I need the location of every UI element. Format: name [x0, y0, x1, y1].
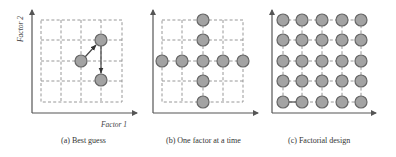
design-point [355, 14, 367, 26]
design-point [197, 34, 209, 46]
x-axis-label: Factor 1 [101, 120, 127, 129]
panel-b-one-factor-at-a-time [153, 10, 258, 113]
design-point [95, 74, 107, 86]
panel-c-factorial-design [272, 10, 376, 113]
design-point [277, 34, 289, 46]
design-point [316, 34, 328, 46]
caption-b: (b) One factor at a time [166, 136, 241, 145]
design-point [296, 34, 308, 46]
design-point [277, 14, 289, 26]
design-point [355, 75, 367, 87]
design-point [316, 55, 328, 67]
caption-a: (a) Best guess [61, 136, 106, 145]
design-point [95, 34, 107, 46]
design-point [336, 14, 348, 26]
design-point [296, 14, 308, 26]
design-point [217, 55, 229, 67]
design-point [355, 96, 367, 108]
design-point [316, 14, 328, 26]
design-point [197, 96, 209, 108]
caption-c: (c) Factorial design [288, 136, 350, 145]
design-point [277, 55, 289, 67]
design-point [355, 55, 367, 67]
design-point [355, 34, 367, 46]
design-point [296, 75, 308, 87]
design-point [296, 55, 308, 67]
design-point [176, 55, 188, 67]
design-point [156, 55, 168, 67]
design-point [197, 55, 209, 67]
design-point [316, 96, 328, 108]
panel-a-best-guess [32, 10, 137, 113]
panel-a-points [75, 34, 107, 86]
doe-diagram [0, 0, 396, 157]
design-point [277, 75, 289, 87]
design-point [197, 75, 209, 87]
design-point [277, 96, 289, 108]
design-point [336, 34, 348, 46]
design-point [75, 55, 87, 67]
design-point [336, 75, 348, 87]
design-point [316, 75, 328, 87]
design-point [296, 96, 308, 108]
y-axis-label: Factor 2 [16, 16, 25, 42]
design-point [197, 14, 209, 26]
design-point [237, 55, 249, 67]
panel-a-arrows [85, 45, 101, 73]
design-point [336, 55, 348, 67]
design-point [336, 96, 348, 108]
